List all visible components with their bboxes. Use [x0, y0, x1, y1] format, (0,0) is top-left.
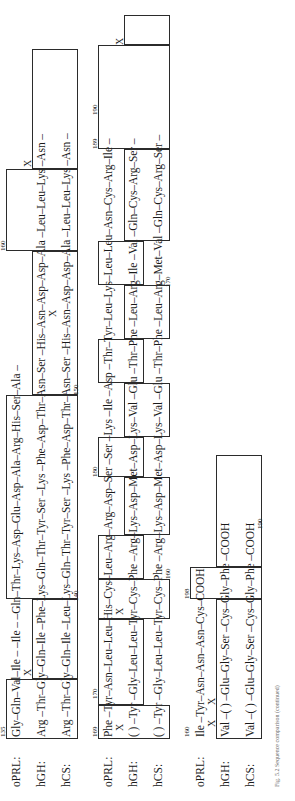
x-marker: X: [207, 698, 217, 705]
x-marker: X: [115, 38, 125, 45]
homology-box: [124, 15, 170, 45]
row-label-hcs-1: hCS:: [60, 741, 72, 787]
homology-box: [98, 45, 170, 149]
number-tick-198: 198: [184, 589, 191, 600]
number-tick-190: 190: [92, 105, 99, 116]
number-tick-180: 180: [92, 467, 99, 478]
number-tick-160: 160: [184, 727, 191, 738]
sequence-row-oprl-1: Gly–Gln–Val–Ile – –Ile – –Gln–Thr–Lys–As…: [10, 365, 22, 737]
number-tick-160: 160: [0, 241, 7, 252]
sequence-row-oprl-2: Phe –Tyr–Asn–Leu–Leu–His–Cys–Leu–Arg–Arg…: [102, 139, 114, 737]
number-tick-169: 169: [92, 727, 99, 738]
row-label-oprl-3: oPRL:: [194, 741, 206, 787]
rotated-page-stage: oPRL: hGH: hCS: Gly–Gln–Val–Ile – –Ile –…: [0, 0, 295, 801]
sequence-row-hcs-1: Arg –Thr–Gly–Gln–Ile –Leu–Lys–Gln–Thr–Ty…: [60, 133, 72, 737]
alignment-block-3: oPRL: hGH: hCS: Ile –Tyr–Asn–Asn–Asn–Cys…: [190, 12, 268, 787]
row-label-hcs-2: hCS:: [152, 741, 164, 787]
number-tick-135: 135: [0, 727, 7, 738]
number-tick-160: 160: [165, 569, 172, 580]
x-marker: X: [23, 669, 33, 676]
sequence-row-hgh-3: Val –( ) –Glu–Gly–Ser –Cys–Gly–Phe –COOH: [219, 523, 231, 737]
x-marker: X: [115, 724, 125, 731]
sequence-row-hgh-2: ( ) –Tyr –Gly–Leu–Leu–Tyr–Cys–Phe –Arg–L…: [127, 139, 139, 737]
row-label-hgh-3: hGH:: [219, 741, 231, 787]
row-label-hgh-1: hGH:: [35, 741, 47, 787]
x-marker: X: [23, 160, 33, 167]
sequence-row-hcs-2: ( ) –Tyr –Gly–Leu–Leu–Tyr–Cys–Phe –Arg–L…: [152, 135, 164, 737]
row-label-hcs-3: hCS:: [244, 741, 256, 787]
row-label-hgh-2: hGH:: [127, 741, 139, 787]
row-label-oprl-2: oPRL:: [102, 741, 114, 787]
x-marker: X: [48, 310, 58, 317]
alignment-block-1: oPRL: hGH: hCS: Gly–Gln–Val–Ile – –Ile –…: [6, 12, 84, 787]
number-tick-170: 170: [165, 277, 172, 288]
number-tick-140: 140: [73, 591, 80, 602]
sequence-row-hcs-3: Val –( ) –Glu–Gly–Ser –Cys–Gly–Phe –COOH: [244, 523, 256, 737]
number-tick-189: 189: [92, 139, 99, 150]
number-tick-190: 190: [257, 519, 264, 530]
number-tick-170: 170: [92, 689, 99, 700]
alignment-block-2: oPRL: hGH: hCS: Phe –Tyr–Asn–Leu–Leu–His…: [98, 12, 176, 787]
sequence-row-oprl-3: Ile –Tyr–Asn–Asn–Asn–Cys–COOH: [194, 569, 206, 737]
x-marker: X: [115, 608, 125, 615]
figure-caption: Fig. 5.2 Sequence comparison (continued): [274, 685, 280, 787]
x-marker: X: [207, 720, 217, 727]
number-tick-150: 150: [73, 385, 80, 396]
row-label-oprl-1: oPRL:: [10, 741, 22, 787]
sequence-alignment-figure: oPRL: hGH: hCS: Gly–Gln–Val–Ile – –Ile –…: [0, 0, 295, 801]
sequence-row-hgh-1: Arg –Thr–Gly–Gln–Ile –Phe–Lys–Gln–Thr–Ty…: [35, 134, 47, 737]
